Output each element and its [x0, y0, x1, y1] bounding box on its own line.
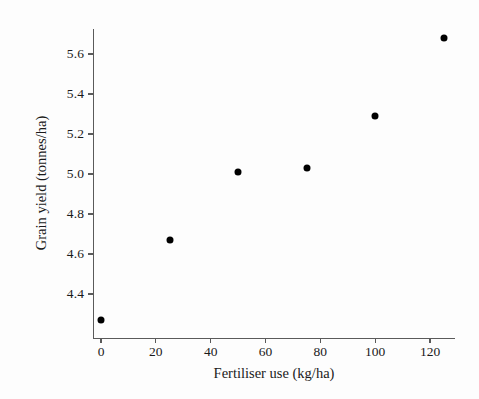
x-axis-tick-label: 60 — [259, 345, 273, 359]
x-axis-tick-mark — [375, 338, 376, 343]
plot-area: 4.44.64.85.05.25.45.6 020406080100120 Gr… — [0, 0, 479, 399]
x-axis-tick-mark — [100, 338, 101, 343]
x-axis-tick-mark — [210, 338, 211, 343]
y-axis-tick-mark — [88, 93, 93, 94]
data-point — [98, 317, 105, 324]
data-point — [303, 165, 310, 172]
x-axis-tick-mark — [155, 338, 156, 343]
y-axis-tick-mark — [88, 173, 93, 174]
y-axis-tick-mark — [88, 293, 93, 294]
x-axis-tick-mark — [320, 338, 321, 343]
x-axis-tick-mark — [265, 338, 266, 343]
y-axis-tick-mark — [88, 213, 93, 214]
data-point — [235, 169, 242, 176]
y-axis-tick-mark — [88, 133, 93, 134]
x-axis-line — [93, 338, 455, 339]
y-axis-tick-mark — [88, 253, 93, 254]
x-axis-tick-label: 0 — [98, 345, 105, 359]
y-axis-title: Grain yield (tonnes/ha) — [34, 28, 49, 338]
y-axis-tick-mark — [88, 53, 93, 54]
x-axis-tick-label: 20 — [149, 345, 163, 359]
y-axis-line — [93, 29, 94, 339]
data-point — [440, 35, 447, 42]
x-axis-title: Fertiliser use (kg/ha) — [93, 366, 455, 381]
x-axis-tick-label: 120 — [420, 345, 440, 359]
data-point — [372, 113, 379, 120]
data-point — [166, 237, 173, 244]
x-axis-tick-mark — [429, 338, 430, 343]
x-axis-tick-label: 80 — [314, 345, 328, 359]
x-axis-tick-label: 100 — [365, 345, 385, 359]
x-axis-tick-label: 40 — [204, 345, 218, 359]
y-axis-title-container: Grain yield (tonnes/ha) — [34, 28, 52, 338]
scatter-plot-figure: 4.44.64.85.05.25.45.6 020406080100120 Gr… — [0, 0, 479, 399]
